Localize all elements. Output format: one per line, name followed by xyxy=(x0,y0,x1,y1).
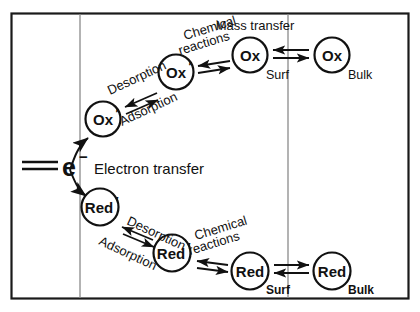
label-red-bulk: Red xyxy=(318,263,346,280)
diagram-canvas: Ox ′ Ox ′ Ox Surf Ox Bulk Red ′ Red ′ Re… xyxy=(0,0,420,312)
label-electron-transfer: Electron transfer xyxy=(94,160,204,177)
electron-charge-superscript: − xyxy=(79,148,88,165)
sublabel-ox-surf: Surf xyxy=(266,68,289,82)
label-ox-bulk: Ox xyxy=(322,47,343,64)
label-mass-transfer-top: Mass transfer xyxy=(216,18,295,33)
prime-ox-desorbed: ′ xyxy=(188,59,191,74)
sublabel-red-surf: Surf xyxy=(266,283,291,297)
label-red-surf: Red xyxy=(236,263,264,280)
prime-red-adsorbed: ′ xyxy=(115,194,118,209)
sublabel-red-bulk: Bulk xyxy=(348,283,374,297)
sublabel-ox-bulk: Bulk xyxy=(348,68,373,82)
electrochemical-pathway-diagram: Ox ′ Ox ′ Ox Surf Ox Bulk Red ′ Red ′ Re… xyxy=(0,0,420,312)
label-ox-desorbed: Ox xyxy=(166,64,187,81)
label-red-adsorbed: Red xyxy=(85,199,113,216)
label-ox-adsorbed: Ox xyxy=(93,111,114,128)
label-ox-surf: Ox xyxy=(240,47,261,64)
electron-symbol: e xyxy=(62,153,76,181)
